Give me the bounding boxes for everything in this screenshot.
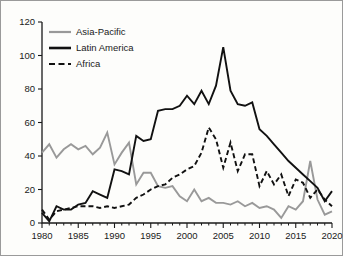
- legend-label-latin-america: Latin America: [76, 42, 134, 53]
- series-lines: [42, 47, 332, 221]
- y-tick-label: 80: [24, 83, 35, 94]
- legend-label-asia-pacific: Asia-Pacific: [76, 26, 126, 37]
- y-tick-label: 40: [24, 150, 35, 161]
- x-tick-label: 2015: [285, 230, 306, 241]
- chart-legend: Asia-PacificLatin AmericaAfrica: [49, 26, 134, 69]
- chart-figure: 020406080100120 198019851990199520002005…: [0, 0, 343, 256]
- y-tick-label: 120: [19, 16, 35, 27]
- x-tick-label: 2010: [249, 230, 270, 241]
- y-axis: 020406080100120: [19, 16, 42, 228]
- x-tick-label: 1990: [104, 230, 125, 241]
- y-tick-label: 0: [30, 217, 35, 228]
- x-tick-label: 1980: [31, 230, 52, 241]
- y-tick-label: 60: [24, 117, 35, 128]
- x-tick-label: 2020: [321, 230, 342, 241]
- legend-label-africa: Africa: [76, 58, 101, 69]
- x-axis: 198019851990199520002005201020152020: [31, 223, 342, 241]
- x-tick-label: 2000: [176, 230, 197, 241]
- x-tick-label: 1995: [140, 230, 161, 241]
- y-tick-label: 100: [19, 50, 35, 61]
- x-tick-label: 2005: [213, 230, 234, 241]
- x-tick-label: 1985: [68, 230, 89, 241]
- series-line-asia-pacific: [42, 133, 332, 218]
- line-chart: 020406080100120 198019851990199520002005…: [1, 1, 343, 256]
- y-tick-label: 20: [24, 184, 35, 195]
